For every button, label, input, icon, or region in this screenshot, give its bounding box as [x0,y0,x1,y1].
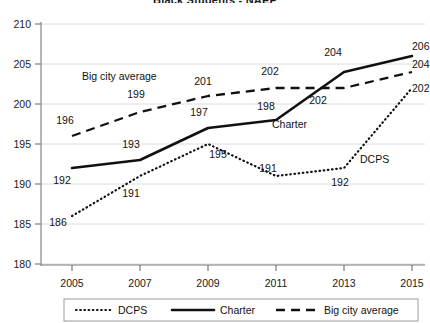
data-label: 192 [331,176,349,188]
chart-container: Black Students - NAEP [0,0,430,323]
data-label: 186 [49,216,67,228]
x-axis-labels: 2005 2007 2009 2011 2013 2015 [60,277,424,289]
data-label: 206 [412,40,430,52]
data-label: 204 [412,58,430,70]
y-tick-label: 190 [13,178,31,190]
y-axis-labels: 210 205 200 195 190 185 180 [13,18,31,270]
chart-legend: DCPS Charter Big city average [64,299,418,321]
legend-label-big-city-average: Big city average [324,304,399,316]
legend-label-charter: Charter [220,304,256,316]
x-tick-label: 2007 [128,277,152,289]
data-label: 202 [412,82,430,94]
y-tick-label: 200 [13,98,31,110]
data-label: 198 [257,100,275,112]
data-label: 204 [324,46,342,58]
data-label: 196 [56,114,74,126]
axes [35,22,425,271]
x-tick-label: 2009 [196,277,220,289]
inline-label-big-city-average: Big city average [82,70,157,82]
chart-plot: 210 205 200 195 190 185 180 2005 2007 20… [0,0,430,323]
data-label: 191 [259,162,277,174]
x-tick-label: 2013 [332,277,356,289]
inline-label-charter: Charter [272,118,308,130]
data-label: 202 [261,65,279,77]
data-label: 199 [127,88,145,100]
gridlines [41,24,425,264]
x-tick-label: 2011 [265,277,288,289]
data-label: 202 [309,94,327,106]
data-labels-big-city-average: 196 199 201 202 202 204 [56,58,429,126]
y-tick-label: 180 [13,258,31,270]
legend-label-dcps: DCPS [118,304,147,316]
data-label: 201 [194,75,212,87]
y-tick-label: 210 [13,18,31,30]
y-tick-label: 195 [13,138,31,150]
data-label: 195 [209,148,227,160]
x-tick-label: 2015 [400,277,424,289]
y-tick-label: 185 [13,218,31,230]
data-label: 197 [190,106,208,118]
data-label: 193 [122,138,140,150]
data-label: 191 [122,187,140,199]
inline-label-dcps: DCPS [360,153,389,165]
y-tick-label: 205 [13,58,31,70]
data-label: 192 [53,174,71,186]
x-tick-label: 2005 [60,277,84,289]
